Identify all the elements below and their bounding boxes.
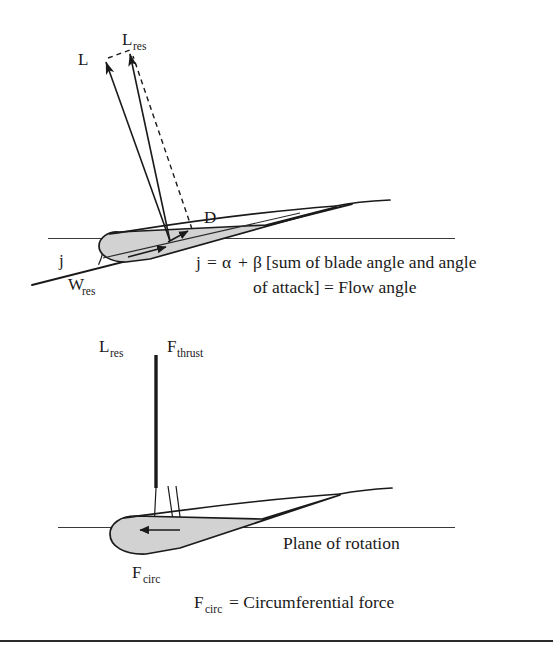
- caption-upper-plus: +: [238, 252, 248, 272]
- label-circumferential: F: [132, 563, 141, 582]
- caption-lower-text: = Circumferential force: [229, 592, 395, 612]
- figure-root: L L res D W res j j = α + β [sum of blad…: [0, 0, 553, 650]
- label-relative-wind-sub: res: [82, 285, 96, 297]
- caption-upper-bracket-text: [sum of blade angle and angle: [266, 252, 477, 272]
- caption-lower-symbol-sub: circ: [205, 603, 222, 615]
- blade-force-diagram: L L res D W res j j = α + β [sum of blad…: [0, 0, 553, 650]
- lower-diagram-group: L res F thrust F circ Plane of rotation …: [58, 337, 455, 615]
- label-lower-lift-resultant-sub: res: [110, 347, 124, 359]
- upper-diagram-group: L L res D W res j j = α + β [sum of blad…: [32, 30, 477, 297]
- label-flow-angle: j: [58, 251, 64, 270]
- label-drag: D: [204, 208, 216, 227]
- label-lift-resultant-sub: res: [133, 40, 147, 52]
- caption-upper-line-2: of attack] = Flow angle: [253, 277, 417, 297]
- label-plane-of-rotation: Plane of rotation: [283, 533, 400, 553]
- caption-upper-symbol: j: [195, 252, 201, 272]
- upper-airfoil-trailing-extension: [336, 200, 390, 206]
- label-lift-resultant: L: [122, 30, 132, 49]
- caption-lower-symbol: F: [194, 593, 203, 612]
- label-lower-lift-resultant: L: [99, 337, 109, 356]
- caption-upper-beta: β: [253, 252, 262, 272]
- caption-upper-equals: =: [207, 252, 217, 272]
- label-thrust: F: [167, 337, 176, 356]
- label-circumferential-sub: circ: [143, 573, 160, 585]
- resultant-parallelogram-dashed: [108, 50, 130, 58]
- label-lift: L: [78, 50, 88, 69]
- label-thrust-sub: thrust: [177, 347, 204, 359]
- lower-airfoil-trailing-extension: [340, 488, 392, 494]
- caption-upper-alpha: α: [222, 252, 231, 272]
